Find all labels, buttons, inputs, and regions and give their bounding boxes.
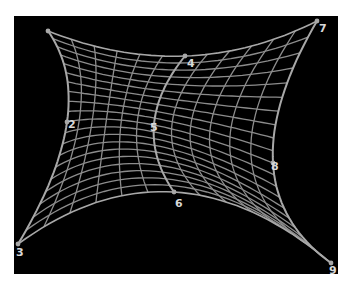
bezier-surface-mesh: 47258369 [0, 0, 350, 289]
control-point-handle-1[interactable] [46, 29, 51, 34]
control-point-label-2: 2 [68, 118, 76, 131]
control-point-label-9: 9 [329, 264, 337, 277]
control-point-label-3: 3 [16, 246, 24, 259]
left-edge-curve [18, 31, 69, 244]
control-point-labels: 47258369 [16, 22, 337, 277]
control-point-label-5: 5 [150, 121, 158, 134]
control-point-handle-6[interactable] [172, 190, 177, 195]
mesh-grid-lines [26, 31, 321, 255]
control-point-label-6: 6 [175, 197, 183, 210]
control-point-label-4: 4 [187, 57, 195, 70]
mesh-row-line [68, 111, 273, 151]
control-point-label-8: 8 [271, 160, 279, 173]
mesh-row-line [64, 64, 287, 86]
mesh-row-line [57, 47, 300, 70]
control-point-label-7: 7 [319, 22, 327, 35]
